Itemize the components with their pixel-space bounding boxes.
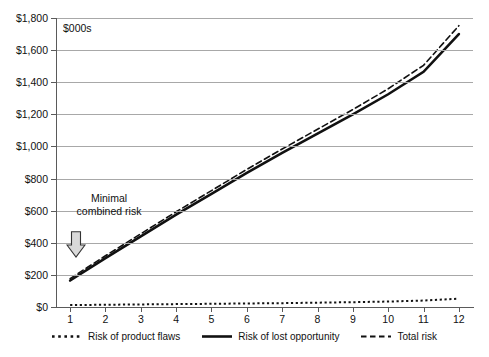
y-axis-spine [56, 18, 57, 308]
axis-units-note: $000s [63, 22, 92, 34]
plot-area [56, 18, 473, 307]
x-axis-tick [105, 308, 106, 312]
y-axis-label: $200 [0, 270, 48, 281]
legend-item[interactable]: Risk of product flaws [52, 331, 180, 342]
dotted-line-swatch [52, 332, 82, 341]
gridline [56, 243, 473, 244]
x-axis-label: 4 [164, 314, 188, 325]
series-line [70, 26, 459, 279]
x-axis-tick [176, 308, 177, 312]
x-axis-tick [247, 308, 248, 312]
x-axis-label: 11 [412, 314, 436, 325]
series-line [70, 299, 459, 305]
x-axis-label: 8 [306, 314, 330, 325]
x-axis-label: 2 [93, 314, 117, 325]
x-axis-label: 3 [129, 314, 153, 325]
x-axis-tick [459, 308, 460, 312]
down-arrow-icon [66, 231, 86, 258]
legend-label: Risk of lost opportunity [238, 331, 339, 342]
dashed-line-swatch [361, 332, 391, 341]
y-axis-label: $600 [0, 206, 48, 217]
y-axis-label: $800 [0, 174, 48, 185]
legend-label: Risk of product flaws [88, 331, 180, 342]
gridline [56, 146, 473, 147]
x-axis-spine [56, 307, 474, 308]
gridline [56, 82, 473, 83]
series-layer [56, 18, 473, 307]
x-axis-label: 7 [270, 314, 294, 325]
y-axis-label: $1,200 [0, 109, 48, 120]
legend-label: Total risk [397, 331, 436, 342]
y-axis-label: $1,800 [0, 13, 48, 24]
gridline [56, 179, 473, 180]
chart-legend: Risk of product flawsRisk of lost opport… [0, 331, 489, 342]
x-axis-label: 5 [199, 314, 223, 325]
x-axis-tick [424, 308, 425, 312]
legend-item[interactable]: Total risk [361, 331, 436, 342]
y-axis-label: $400 [0, 238, 48, 249]
x-axis-tick [318, 308, 319, 312]
gridline [56, 275, 473, 276]
x-axis-tick [211, 308, 212, 312]
gridline [56, 18, 473, 19]
y-axis-label: $1,600 [0, 45, 48, 56]
legend-item[interactable]: Risk of lost opportunity [202, 331, 339, 342]
x-axis-tick [353, 308, 354, 312]
gridline [56, 114, 473, 115]
x-axis-tick [388, 308, 389, 312]
gridline [56, 50, 473, 51]
x-axis-label: 1 [58, 314, 82, 325]
risk-line-chart: $0$200$400$600$800$1,000$1,200$1,400$1,6… [0, 0, 489, 357]
x-axis-label: 9 [341, 314, 365, 325]
solid-line-swatch [202, 332, 232, 341]
y-axis-label: $0 [0, 302, 48, 313]
x-axis-tick [141, 308, 142, 312]
x-axis-tick [282, 308, 283, 312]
y-axis-label: $1,000 [0, 141, 48, 152]
x-axis-label: 10 [376, 314, 400, 325]
gridline [56, 211, 473, 212]
x-axis-tick [70, 308, 71, 312]
y-axis-label: $1,400 [0, 77, 48, 88]
x-axis-label: 6 [235, 314, 259, 325]
x-axis-label: 12 [447, 314, 471, 325]
